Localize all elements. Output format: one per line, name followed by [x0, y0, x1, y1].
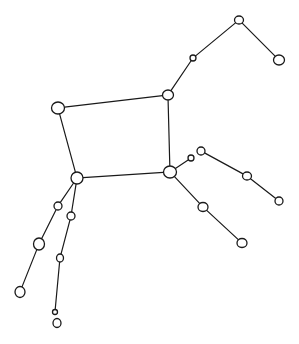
edge-D-G	[168, 101, 170, 166]
edge-N-O	[42, 210, 57, 239]
star-node-H	[188, 155, 194, 161]
constellation-diagram	[0, 0, 299, 344]
star-node-N	[54, 202, 62, 210]
star-node-R	[57, 254, 64, 262]
star-node-G	[164, 166, 177, 178]
edge-G-L	[175, 177, 200, 204]
edge-F-Q	[72, 184, 77, 212]
edge-F-G	[83, 172, 164, 177]
star-node-S	[53, 310, 58, 315]
star-layer	[15, 16, 285, 328]
edge-E-F	[60, 114, 76, 172]
edge-R-S	[55, 262, 59, 310]
star-node-K	[275, 197, 283, 205]
star-node-P	[15, 287, 25, 298]
star-node-I	[197, 147, 205, 155]
star-node-F	[71, 172, 83, 184]
star-node-T	[53, 319, 61, 328]
edge-J-K	[251, 179, 276, 199]
edge-L-M	[207, 210, 239, 239]
star-node-Q	[67, 212, 75, 220]
edge-C-D	[171, 61, 191, 91]
edge-A-C	[195, 23, 235, 56]
edge-A-B	[242, 23, 275, 56]
edge-G-H	[175, 160, 188, 169]
edge-layer	[22, 23, 276, 310]
edge-E-D	[65, 96, 163, 108]
edge-F-N	[60, 183, 73, 203]
star-node-M	[237, 239, 247, 248]
edge-Q-R	[61, 220, 70, 254]
star-node-E	[52, 102, 65, 114]
star-node-A	[235, 16, 244, 24]
star-node-D	[163, 90, 174, 100]
star-node-B	[274, 55, 285, 65]
star-node-J	[243, 172, 252, 180]
star-node-C	[190, 55, 196, 61]
star-node-L	[198, 203, 208, 212]
constellation-canvas	[0, 0, 299, 344]
star-node-O	[34, 238, 45, 250]
edge-I-J	[205, 153, 244, 174]
edge-O-P	[22, 250, 37, 287]
